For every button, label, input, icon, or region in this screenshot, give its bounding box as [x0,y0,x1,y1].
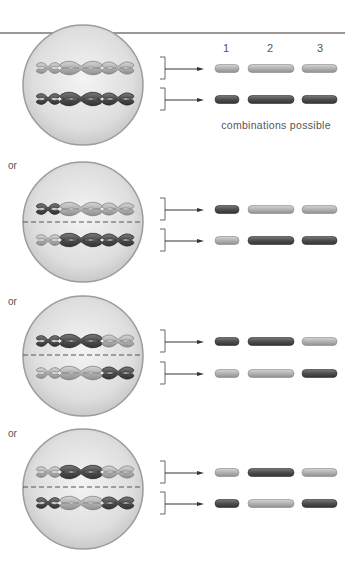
arrow-head-icon [197,471,204,475]
bracket [160,492,165,514]
light-gamete-chromosome-bar-1 [215,370,239,378]
bracket [160,461,165,483]
dark-gamete-chromosome-bar-3 [302,500,337,508]
arrow-head-icon [197,340,204,344]
light-gamete-chromosome-bar-3 [302,469,337,477]
bracket [160,88,165,110]
light-gamete-chromosome-bar-1 [215,65,239,73]
bracket [160,229,165,251]
bracket [160,57,165,79]
bracket [160,198,165,220]
light-gamete-chromosome-bar-2 [248,500,294,508]
dark-gamete-chromosome-bar-3 [302,96,337,104]
light-gamete-chromosome-bar-2 [248,370,294,378]
arrow-head-icon [197,372,204,376]
column-label-2: 2 [267,42,273,54]
bracket [160,362,165,384]
dark-gamete-chromosome-bar-2 [248,338,294,346]
dark-gamete-chromosome-bar-1 [215,206,239,214]
bracket [160,330,165,352]
arrangement-3: or [8,296,337,416]
cell-circle [23,296,143,416]
arrow-head-icon [197,67,204,71]
arrangement-4: or [8,428,337,549]
column-labels: 1 2 3 [223,42,323,54]
light-gamete-chromosome-bar-2 [248,65,294,73]
cell-circle [23,429,143,549]
cell-circle [23,25,143,145]
dark-gamete-chromosome-bar-2 [248,237,294,245]
arrow-head-icon [197,502,204,506]
dark-gamete-chromosome-bar-1 [215,96,239,104]
arrow-head-icon [197,98,204,102]
column-label-3: 3 [317,42,323,54]
light-gamete-chromosome-bar-3 [302,206,337,214]
light-gamete-chromosome-bar-3 [302,338,337,346]
light-gamete-chromosome-bar-1 [215,237,239,245]
light-gamete-chromosome-bar-2 [248,206,294,214]
dark-gamete-chromosome-bar-2 [248,469,294,477]
meiosis-independent-assortment-diagram: 1 2 3 combinations possible ororor [0,0,361,566]
dark-gamete-chromosome-bar-3 [302,237,337,245]
arrow-head-icon [197,239,204,243]
or-label: or [8,296,18,307]
dark-gamete-chromosome-bar-1 [215,338,239,346]
or-label: or [8,428,18,439]
dark-gamete-chromosome-bar-2 [248,96,294,104]
combinations-caption: combinations possible [221,119,331,131]
or-label: or [8,160,18,171]
dark-gamete-chromosome-bar-1 [215,500,239,508]
light-gamete-chromosome-bar-1 [215,469,239,477]
light-gamete-chromosome-bar-3 [302,65,337,73]
arrangement-2: or [8,160,337,282]
column-label-1: 1 [223,42,229,54]
dark-gamete-chromosome-bar-3 [302,370,337,378]
arrow-head-icon [197,208,204,212]
